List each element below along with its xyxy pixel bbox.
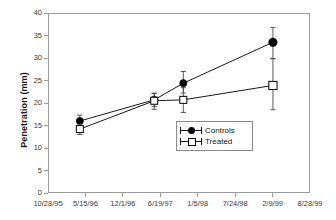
x-tick-label: 2/9/99 bbox=[262, 199, 283, 208]
chart-legend: Controls Treated bbox=[176, 121, 253, 151]
y-tick-label: 20 bbox=[20, 98, 42, 107]
y-tick-label: 15 bbox=[20, 121, 42, 130]
x-tick-mark bbox=[85, 193, 86, 197]
plot-area bbox=[48, 13, 310, 193]
x-tick-label: 5/15/96 bbox=[73, 199, 98, 208]
x-tick-label: 7/24/98 bbox=[223, 199, 248, 208]
x-tick-mark bbox=[197, 193, 198, 197]
x-tick-mark bbox=[160, 193, 161, 197]
y-tick-label: 0 bbox=[20, 188, 42, 197]
y-tick-label: 25 bbox=[20, 76, 42, 85]
y-tick-label: 35 bbox=[20, 31, 42, 40]
x-tick-label: 1/5/98 bbox=[187, 199, 208, 208]
x-tick-mark bbox=[122, 193, 123, 197]
x-tick-mark bbox=[235, 193, 236, 197]
x-tick-label: 10/28/95 bbox=[33, 199, 62, 208]
y-axis-title: Penetration (mm) bbox=[19, 50, 29, 170]
legend-item-controls: Controls bbox=[180, 125, 248, 136]
legend-label-controls: Controls bbox=[205, 126, 235, 135]
y-tick-label: 40 bbox=[20, 8, 42, 17]
y-tick-label: 10 bbox=[20, 143, 42, 152]
legend-item-treated: Treated bbox=[180, 136, 248, 147]
y-tick-label: 30 bbox=[20, 53, 42, 62]
open-square-marker-icon bbox=[180, 137, 202, 146]
x-tick-label: 8/28/99 bbox=[297, 199, 322, 208]
x-tick-mark bbox=[272, 193, 273, 197]
filled-circle-marker-icon bbox=[180, 126, 202, 135]
legend-label-treated: Treated bbox=[205, 137, 232, 146]
x-tick-label: 12/1/96 bbox=[110, 199, 135, 208]
y-tick-label: 5 bbox=[20, 166, 42, 175]
x-tick-label: 6/19/97 bbox=[148, 199, 173, 208]
penetration-chart: Penetration (mm) 0510152025303540 10/28/… bbox=[0, 0, 336, 220]
